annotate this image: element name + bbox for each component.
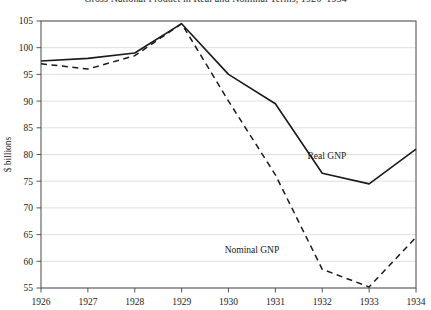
y-tick-label: 55 [24, 283, 34, 293]
x-tick-label: 1927 [78, 297, 97, 307]
y-tick-label: 80 [24, 150, 34, 160]
y-tick-label: 105 [19, 16, 34, 26]
x-tick-label: 1931 [266, 297, 285, 307]
gnp-line-chart-figure: Gross National Product in Real and Nomin… [0, 0, 431, 310]
series-label-nominal-gnp: Nominal GNP [225, 245, 280, 255]
y-tick-label: 75 [24, 177, 34, 187]
x-tick-label: 1933 [360, 297, 379, 307]
x-tick-label: 1934 [407, 297, 426, 307]
x-tick-label: 1932 [313, 297, 332, 307]
x-tick-label: 1926 [32, 297, 51, 307]
y-tick-label: 60 [24, 257, 34, 267]
y-axis-title-text: $ billions [3, 136, 13, 172]
x-tick-label: 1928 [125, 297, 144, 307]
x-tick-label: 1930 [219, 297, 238, 307]
x-axis-tick-labels: 192619271928192919301931193219331934 [32, 297, 426, 307]
y-axis-title: $ billions [3, 136, 13, 172]
series-inline-labels: Real GNPNominal GNP [225, 151, 347, 255]
y-axis-tick-labels: 556065707580859095100105 [19, 16, 34, 293]
y-tick-label: 95 [24, 70, 34, 80]
y-tick-label: 70 [24, 203, 34, 213]
x-tick-label: 1929 [172, 297, 191, 307]
chart-plot-area: 556065707580859095100105 192619271928192… [0, 0, 431, 310]
y-axis-ticks [37, 21, 42, 288]
series-label-real-gnp: Real GNP [308, 151, 347, 161]
y-tick-label: 90 [24, 97, 34, 107]
y-tick-label: 65 [24, 230, 34, 240]
y-tick-label: 100 [19, 43, 34, 53]
x-axis-ticks [41, 288, 416, 293]
y-tick-label: 85 [24, 123, 34, 133]
